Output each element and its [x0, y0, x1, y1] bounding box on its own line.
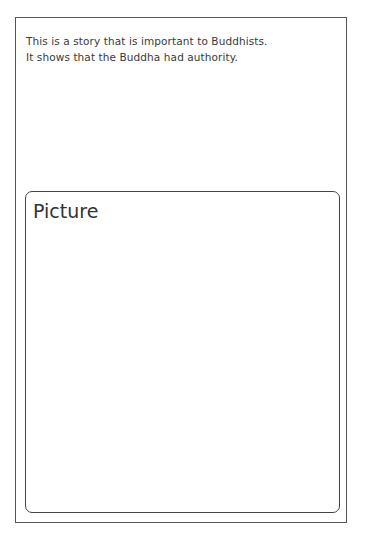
- picture-drawing-area: Picture: [25, 191, 340, 513]
- intro-text: This is a story that is important to Bud…: [26, 33, 268, 65]
- intro-line-1: This is a story that is important to Bud…: [26, 33, 268, 49]
- picture-label: Picture: [33, 200, 98, 222]
- intro-line-2: It shows that the Buddha had authority.: [26, 49, 268, 65]
